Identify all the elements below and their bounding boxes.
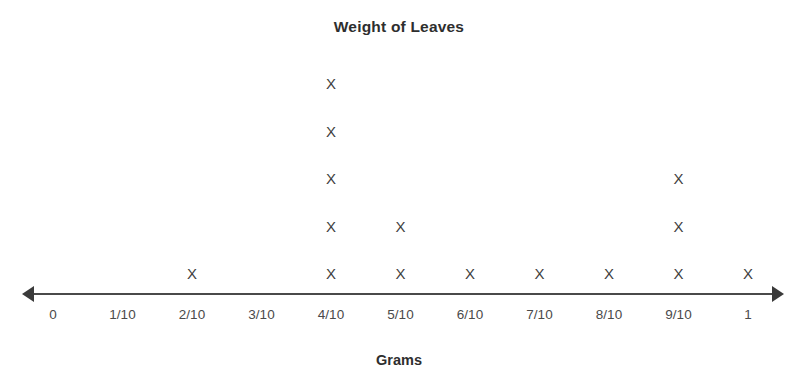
data-point-x-mark: X: [666, 266, 692, 281]
plot-area: XXXXXXXXXXXXXXX 01/102/103/104/105/106/1…: [0, 0, 798, 388]
data-point-x-mark: X: [318, 76, 344, 91]
axis-tick-label: 1: [713, 307, 783, 322]
data-point-x-mark: X: [666, 171, 692, 186]
data-point-x-mark: X: [596, 266, 622, 281]
data-point-x-mark: X: [318, 124, 344, 139]
axis-tick-label: 3/10: [227, 307, 297, 322]
data-point-x-mark: X: [527, 266, 553, 281]
data-point-x-mark: X: [388, 219, 414, 234]
number-line-axis: [30, 293, 782, 295]
data-point-x-mark: X: [318, 171, 344, 186]
data-point-x-mark: X: [457, 266, 483, 281]
arrow-right-icon: [772, 286, 784, 302]
axis-tick-label: 0: [18, 307, 88, 322]
axis-tick-label: 2/10: [157, 307, 227, 322]
axis-tick-label: 9/10: [644, 307, 714, 322]
data-point-x-mark: X: [179, 266, 205, 281]
axis-tick-label: 4/10: [296, 307, 366, 322]
data-point-x-mark: X: [318, 219, 344, 234]
axis-tick-label: 1/10: [88, 307, 158, 322]
dot-plot-screenshot: Weight of Leaves XXXXXXXXXXXXXXX 01/102/…: [0, 0, 798, 388]
axis-tick-label: 7/10: [505, 307, 575, 322]
axis-tick-label: 8/10: [574, 307, 644, 322]
data-point-x-mark: X: [388, 266, 414, 281]
x-axis-label: Grams: [0, 352, 798, 368]
data-point-x-mark: X: [735, 266, 761, 281]
axis-tick-label: 5/10: [366, 307, 436, 322]
axis-tick-label: 6/10: [435, 307, 505, 322]
data-point-x-mark: X: [318, 266, 344, 281]
arrow-left-icon: [22, 286, 34, 302]
data-point-x-mark: X: [666, 219, 692, 234]
